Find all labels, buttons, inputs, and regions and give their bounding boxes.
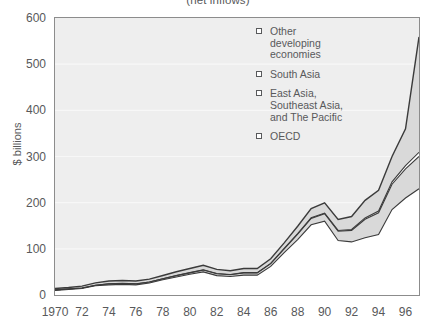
chart-figure: (net inflows) $ billions 600500400300200… [0,0,436,323]
y-tick-label: 300 [12,152,46,162]
legend-label: South Asia [270,69,376,81]
x-tick-label: 80 [183,305,196,319]
y-tick-label: 0 [12,290,46,300]
legend-item-oecd[interactable]: OECD [256,131,376,143]
y-tick-label: 200 [12,198,46,208]
x-tick-label: 72 [75,305,88,319]
x-tick-label: 86 [264,305,277,319]
x-tick-label: 84 [237,305,250,319]
x-tick-label: 78 [156,305,169,319]
legend-label: Southeast Asia, [270,100,376,112]
y-axis-ticks: 6005004003002001000 [8,0,46,323]
legend-label: OECD [270,131,376,143]
y-tick-label: 100 [12,244,46,254]
legend-item-east-asia[interactable]: East Asia,Southeast Asia,and The Pacific [256,88,376,123]
x-axis-ticks: 197072747678808284868890929496 [0,303,436,323]
legend-label: Other [270,26,376,38]
legend-item-south-asia[interactable]: South Asia [256,69,376,81]
legend-label: and The Pacific [270,112,376,124]
y-tick-label: 600 [12,13,46,23]
legend-swatch-icon [256,90,262,96]
x-tick-label: 94 [372,305,385,319]
legend-swatch-icon [256,71,262,77]
legend-swatch-icon [256,133,262,139]
x-tick-label: 96 [399,305,412,319]
x-tick-label: 76 [129,305,142,319]
legend-item-other-developing-economies[interactable]: Otherdevelopingeconomies [256,26,376,61]
x-tick-label: 74 [102,305,115,319]
x-tick-label: 90 [318,305,331,319]
chart-legend: OtherdevelopingeconomiesSouth AsiaEast A… [256,26,376,151]
x-tick-label: 92 [345,305,358,319]
legend-swatch-icon [256,28,262,34]
legend-label: economies [270,49,376,61]
x-tick-label: 82 [210,305,223,319]
chart-title: (net inflows) [0,0,436,6]
y-tick-label: 400 [12,105,46,115]
y-tick-label: 500 [12,59,46,69]
x-tick-label: 88 [291,305,304,319]
x-tick-label: 1970 [42,305,69,319]
